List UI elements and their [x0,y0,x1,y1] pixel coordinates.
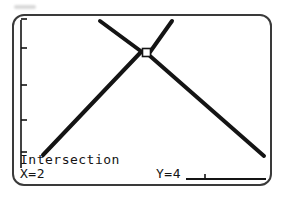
y-axis-ticks [21,19,27,152]
y-value-readout: Y=4 [156,166,181,181]
intersection-cursor[interactable] [143,49,151,57]
x-value-readout: X=2 [20,166,45,181]
y-axis [21,19,27,168]
intersection-mode-label: Intersection [20,152,120,167]
plot-line-y2 [100,21,264,156]
plot-line-y1 [43,21,172,155]
x-axis [186,174,266,179]
